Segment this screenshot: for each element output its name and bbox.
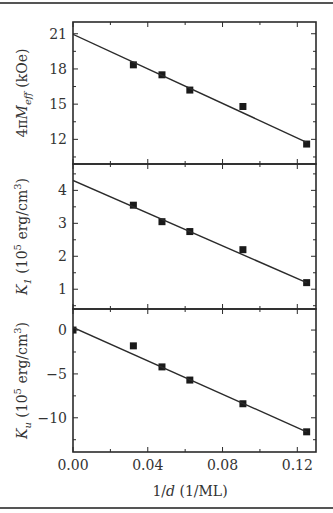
data-point [239, 103, 246, 110]
y-tick-label: −10 [37, 410, 67, 426]
y-tick-label: 18 [49, 61, 67, 77]
plot-frame [73, 309, 316, 452]
y-tick-label: 15 [49, 96, 67, 112]
x-tick-label: 0.08 [207, 457, 238, 473]
chart-panels: 121518214πMeff (kOe)1234K1 (105 erg/cm3)… [12, 22, 316, 452]
data-point [130, 342, 137, 349]
x-label-unit: (1/ML) [175, 483, 228, 499]
y-tick-label: −5 [46, 366, 67, 382]
panel-bottom: −10−50Ku (105 erg/cm3) [12, 309, 316, 452]
x-tick-label: 0.04 [132, 457, 163, 473]
x-label-main: 1/ [152, 483, 166, 499]
x-tick-label: 0.12 [282, 457, 313, 473]
x-tick-label: 0.00 [57, 457, 88, 473]
data-point [239, 246, 246, 253]
stacked-chart: 121518214πMeff (kOe)1234K1 (105 erg/cm3)… [0, 0, 333, 513]
x-label-italic: d [166, 483, 175, 499]
y-tick-label: 12 [49, 131, 67, 147]
panel-top: 121518214πMeff (kOe) [14, 22, 316, 164]
y-axis-label: Ku (105 erg/cm3) [12, 322, 33, 440]
x-axis-label: 1/d (1/ML) [152, 483, 227, 499]
x-tick-labels: 0.000.040.080.12 [57, 457, 312, 473]
fit-line [73, 34, 307, 142]
y-tick-label: 3 [58, 215, 67, 231]
fit-line [73, 327, 307, 431]
plot-frame [73, 164, 316, 309]
plot-frame [73, 22, 316, 164]
y-tick-label: 2 [58, 248, 67, 264]
y-tick-label: 1 [58, 281, 67, 297]
y-tick-label: 21 [49, 26, 67, 42]
fit-line [73, 180, 307, 282]
y-tick-label: 0 [58, 322, 67, 338]
y-axis-label: 4πMeff (kOe) [14, 48, 33, 137]
y-axis-label: K1 (105 erg/cm3) [12, 178, 33, 296]
y-tick-label: 4 [58, 182, 67, 198]
panel-middle: 1234K1 (105 erg/cm3) [12, 164, 316, 309]
